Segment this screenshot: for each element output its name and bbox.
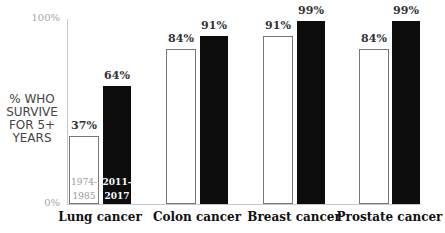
bar-old [359,49,389,204]
bar-new [392,21,420,204]
y-axis-line [67,19,68,204]
value-label: 99% [291,4,331,17]
bar-new [200,36,228,204]
year-label-new: 2011-2017 [102,175,132,203]
value-label: 84% [354,32,394,45]
category-label: Breast cancer [239,210,349,224]
category-label: Prostate cancer [335,210,445,224]
bar-old [263,36,293,204]
y-axis-label: % WHO SURVIVE FOR 5+ YEARS [0,93,64,145]
category-label: Colon cancer [142,210,252,224]
value-label: 91% [194,19,234,32]
y-tick-100: 100% [20,12,60,23]
value-label: 64% [97,69,137,82]
bar-new [297,21,325,204]
x-axis-baseline [67,204,421,205]
value-label: 37% [64,119,104,132]
bar-old [166,49,196,204]
value-label: 91% [258,19,298,32]
y-tick-0: 0% [20,197,60,208]
category-label: Lung cancer [45,210,155,224]
value-label: 84% [161,32,201,45]
year-label-old: 1974-1985 [69,175,99,203]
value-label: 99% [386,4,426,17]
